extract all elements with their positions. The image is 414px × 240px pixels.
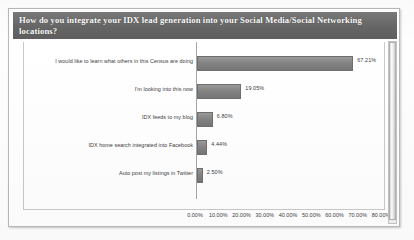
vertical-scrollbar[interactable] [388,41,397,224]
page-title: How do you integrate your IDX lead gener… [19,15,391,36]
plot-area: I would like to learn what others in thi… [196,42,380,199]
category-label: I would like to learn what others in thi… [55,58,193,64]
chart-bar [197,112,213,127]
x-tick-label: 0.00% [187,212,203,218]
chart-bar-row: IDX feeds to my blog6.80% [197,106,380,134]
category-label: IDX feeds to my blog [142,114,193,120]
x-tick-label: 40.00% [279,212,298,218]
bar-value-label: 4.44% [211,141,227,147]
category-label: I'm looking into this now [135,86,193,92]
category-label: IDX home search integrated into Facebook [89,142,193,148]
category-label: Auto post my listings in Twitter [119,170,193,176]
chart-area: I would like to learn what others in thi… [23,42,385,210]
chart-bar [197,84,241,99]
x-tick-label: 30.00% [255,212,274,218]
chart-bar [197,140,207,155]
bar-value-label: 6.80% [217,113,233,119]
chart-bar-row: Auto post my listings in Twitter2.50% [197,162,380,190]
bar-value-label: 2.50% [207,169,223,175]
bar-value-label: 19.05% [245,85,264,91]
x-axis-tick-labels: 0.00%10.00%20.00%30.00%40.00%50.00%60.00… [23,212,385,224]
chart-bar-row: IDX home search integrated into Facebook… [197,134,380,162]
chart-title-bar: How do you integrate your IDX lead gener… [13,12,397,39]
chart-bar [197,168,203,183]
x-tick-label: 20.00% [232,212,251,218]
x-tick-label: 10.00% [209,212,228,218]
survey-result-panel: How do you integrate your IDX lead gener… [8,8,400,227]
chart-bar [197,56,353,71]
x-tick-label: 50.00% [302,212,321,218]
x-tick-label: 70.00% [348,212,367,218]
chart-bar-row: I'm looking into this now19.05% [197,78,380,106]
bar-value-label: 67.21% [357,57,376,63]
chart-bar-row: I would like to learn what others in thi… [197,50,380,78]
scrollbar-thumb[interactable] [389,42,396,220]
screenshot-canvas: How do you integrate your IDX lead gener… [0,0,414,240]
x-tick-label: 60.00% [325,212,344,218]
